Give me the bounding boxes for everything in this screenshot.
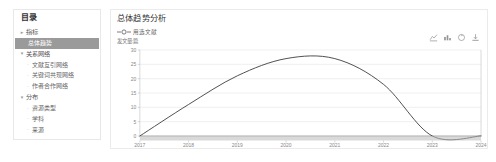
- bar-chart-svg: [443, 33, 452, 42]
- bullet-icon: ·: [27, 73, 31, 79]
- sidebar-group-label: 指标: [26, 29, 38, 36]
- sidebar-group-relation-network: ▾ 关系网络 · 文献互引网络 · 关键词共现网络 ·: [14, 49, 100, 92]
- sidebar-item-label: 作者合作网络: [32, 83, 68, 90]
- app-root: 目录 ▸ 指标 总体趋势 ▾: [0, 0, 496, 162]
- x-tick-label: 2017: [134, 142, 145, 148]
- chevron-right-icon: ▸: [19, 30, 25, 36]
- chart-y-tick-labels: 051015202530: [131, 47, 140, 139]
- sidebar-item-overall-trend[interactable]: 总体趋势: [15, 38, 99, 49]
- sidebar-item-discipline[interactable]: · 学科: [14, 114, 100, 125]
- chevron-down-icon: ▾: [19, 95, 25, 101]
- download-icon[interactable]: [471, 28, 480, 37]
- y-tick-label: 20: [131, 76, 137, 82]
- sidebar-item-keyword-cooccurrence-network[interactable]: · 关键词共现网络: [14, 70, 100, 81]
- x-tick-label: 2019: [232, 142, 243, 148]
- sidebar-title: 目录: [14, 10, 100, 27]
- sidebar-item-citation-network[interactable]: · 文献互引网络: [14, 60, 100, 71]
- y-tick-label: 30: [131, 47, 137, 53]
- chart-title: 总体趋势分析: [117, 14, 166, 23]
- sidebar-group-label: 关系网络: [26, 51, 50, 58]
- trend-chart-card: 总体趋势分析 用选文献 发文量:篇: [110, 9, 488, 149]
- line-chart-icon[interactable]: [429, 28, 438, 37]
- sidebar-item-resource-type[interactable]: · 资源类型: [14, 103, 100, 114]
- bullet-icon: ·: [27, 127, 31, 133]
- y-tick-label: 0: [134, 133, 137, 139]
- chart-x-tick-labels: 20172018201920202021202220232024: [134, 142, 486, 148]
- sidebar-item-source[interactable]: · 来源: [14, 124, 100, 135]
- bar-chart-icon[interactable]: [443, 28, 452, 37]
- legend-line-circle-icon: [117, 29, 131, 37]
- chart-legend[interactable]: 用选文献: [117, 29, 157, 37]
- chart-plot-area: 051015202530 201720182019202020212022202…: [111, 44, 487, 150]
- bullet-icon: ·: [27, 62, 31, 68]
- sidebar-sublist-relation-network: · 文献互引网络 · 关键词共现网络 · 作者合作网络: [14, 60, 100, 92]
- series-line-overall-trend: [140, 56, 481, 140]
- sidebar-item-label: 资源类型: [32, 105, 56, 112]
- chevron-down-icon: ▾: [19, 51, 25, 57]
- legend-label: 用选文献: [133, 30, 157, 36]
- bullet-icon: ·: [27, 106, 31, 112]
- sidebar-item-label: 总体趋势: [28, 40, 52, 47]
- sidebar: 目录 ▸ 指标 总体趋势 ▾: [0, 0, 104, 162]
- sidebar-group-header-relation-network[interactable]: ▾ 关系网络: [14, 49, 100, 60]
- x-axis-band: [140, 136, 481, 141]
- y-tick-label: 15: [131, 90, 137, 96]
- sidebar-item-label: 学科: [32, 116, 44, 123]
- sidebar-nav-list: ▸ 指标 总体趋势 ▾ 关系网络: [14, 27, 100, 135]
- sidebar-group-indicators: ▸ 指标 总体趋势: [14, 27, 100, 49]
- sidebar-group-header-distribution[interactable]: ▾ 分布: [14, 92, 100, 103]
- line-chart-svg: [429, 33, 438, 42]
- legend-marker-svg: [117, 29, 131, 35]
- x-tick-label: 2024: [476, 142, 487, 148]
- y-tick-label: 5: [134, 119, 137, 125]
- chart-gridlines: [140, 50, 481, 136]
- x-tick-label: 2020: [281, 142, 292, 148]
- chart-toolbox: [429, 28, 480, 37]
- bullet-icon: ·: [27, 116, 31, 122]
- x-tick-label: 2022: [378, 142, 389, 148]
- sidebar-group-distribution: ▾ 分布 · 资源类型 · 学科 ·: [14, 92, 100, 135]
- main-content: 总体趋势分析 用选文献 发文量:篇: [104, 0, 496, 162]
- sidebar-item-label: 关键词共现网络: [32, 72, 74, 79]
- x-tick-label: 2023: [427, 142, 438, 148]
- sidebar-item-label: 来源: [32, 127, 44, 134]
- sidebar-panel: 目录 ▸ 指标 总体趋势 ▾: [13, 9, 101, 140]
- sidebar-sublist-distribution: · 资源类型 · 学科 · 来源: [14, 103, 100, 135]
- x-tick-label: 2018: [183, 142, 194, 148]
- sidebar-item-label: 文献互引网络: [32, 62, 68, 69]
- restore-icon[interactable]: [457, 28, 466, 37]
- sidebar-group-label: 分布: [26, 94, 38, 101]
- y-tick-label: 10: [131, 104, 137, 110]
- sidebar-item-author-collaboration-network[interactable]: · 作者合作网络: [14, 81, 100, 92]
- y-tick-label: 25: [131, 61, 137, 67]
- chart-svg: 051015202530 201720182019202020212022202…: [111, 44, 487, 150]
- x-tick-label: 2021: [329, 142, 340, 148]
- sidebar-group-header-indicators[interactable]: ▸ 指标: [14, 27, 100, 38]
- sidebar-sublist-indicators: 总体趋势: [14, 38, 100, 49]
- restore-svg: [457, 33, 466, 42]
- bullet-icon: ·: [27, 84, 31, 90]
- download-svg: [471, 33, 480, 42]
